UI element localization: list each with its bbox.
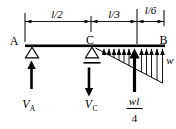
dimension-ticks	[25, 9, 164, 44]
node-label-b: B	[159, 33, 167, 47]
beam-diagram-canvas: l/2 l/3 l/6 A C B V A V C	[0, 0, 176, 129]
resultant-numerator: wl	[129, 95, 139, 107]
dim-arrowhead	[85, 20, 91, 24]
reaction-arrow-vc	[85, 68, 93, 97]
dim-arrowhead	[138, 20, 144, 24]
reaction-label-va: V A	[22, 97, 35, 113]
beam-diagram-figure: l/2 l/3 l/6 A C B V A V C	[0, 0, 176, 129]
dim-label-db: l/6	[145, 4, 157, 16]
resultant-fraction-label: wl 4	[127, 95, 143, 124]
distributed-load	[96, 48, 163, 83]
dimension-lines	[25, 20, 164, 24]
dim-arrowhead	[26, 20, 32, 24]
dim-arrowhead	[131, 20, 137, 24]
beam	[25, 45, 165, 48]
resultant-arrowhead	[129, 48, 139, 58]
pin-support-a	[26, 47, 39, 58]
node-label-a: A	[10, 34, 19, 48]
reaction-arrow-va	[27, 61, 35, 90]
dim-label-ac: l/2	[51, 8, 63, 20]
dim-arrowhead	[158, 20, 164, 24]
vc-subscript: C	[92, 104, 97, 113]
va-subscript: A	[30, 104, 36, 113]
vc-arrowhead	[85, 88, 93, 97]
dim-label-cd: l/3	[108, 8, 120, 20]
load-intensity-label: w	[166, 54, 174, 66]
node-label-c: C	[86, 33, 94, 47]
reaction-label-vc: V C	[85, 97, 98, 113]
va-arrowhead	[27, 61, 35, 70]
dim-arrowhead	[92, 20, 98, 24]
resultant-denominator: 4	[132, 112, 138, 124]
